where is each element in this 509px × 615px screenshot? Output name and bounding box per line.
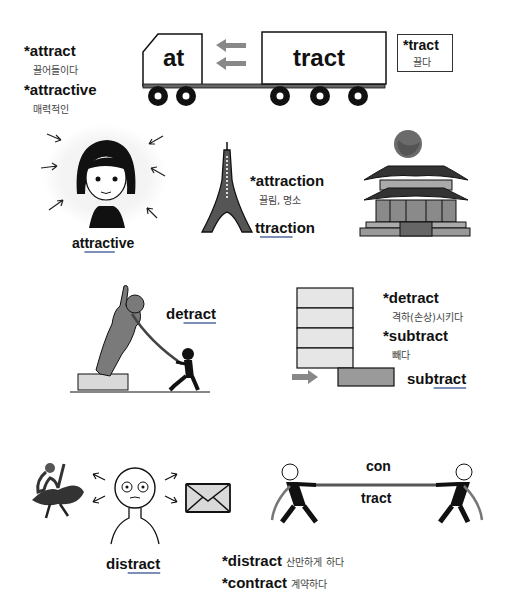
attraction-caption: ttraction [255,219,315,236]
attractive-girl-illustration [35,124,175,234]
subtract-caption: subtract [407,370,466,387]
word-distract: *distract [222,552,282,569]
word-contract: *contract [222,574,287,591]
meaning-tract: 끌다 [413,54,452,69]
dancing-woman-icon [28,460,86,520]
meaning-subtract: 빼다 [392,347,463,362]
tract-definition-box: *tract 끌다 [397,34,453,72]
tug-label-con: con [366,458,391,474]
truck-cab-label: at [163,44,184,72]
attractive-caption: attractive [72,235,134,251]
entry-distract-contract: *distract 산만하게 하다 *contract 계약하다 [222,552,344,592]
meaning-distract: 산만하게 하다 [286,557,343,568]
toppling-statue-illustration [70,282,210,397]
tug-label-tract: tract [361,490,391,506]
meaning-attraction: 끌림, 명소 [259,192,324,207]
entry-attraction: *attraction 끌림, 명소 [250,172,324,207]
word-detract: *detract [383,289,463,306]
word-attract: *attract [24,42,97,59]
arrow-left-icon [216,39,246,70]
meaning-attract: 끌어들이다 [33,62,97,77]
korean-palace-illustration [360,130,470,238]
entry-detract-subtract: *detract 격하(손상)시키다 *subtract 빼다 [383,289,463,362]
entry-attract: *attract 끌어들이다 *attractive 매력적인 [24,42,97,116]
truck-trailer-label: tract [293,44,345,72]
detract-caption: detract [166,305,216,322]
word-attractive: *attractive [24,81,97,98]
eiffel-tower-icon [200,142,255,237]
arrow-right-icon [292,370,318,384]
distract-caption: distract [106,555,160,572]
meaning-attractive: 매력적인 [33,101,97,116]
word-tract: *tract [403,37,452,53]
envelope-icon [185,483,231,513]
meaning-contract: 계약하다 [291,579,327,590]
word-subtract: *subtract [383,327,463,344]
meaning-detract: 격하(손상)시키다 [392,309,463,324]
word-attraction: *attraction [250,172,324,189]
